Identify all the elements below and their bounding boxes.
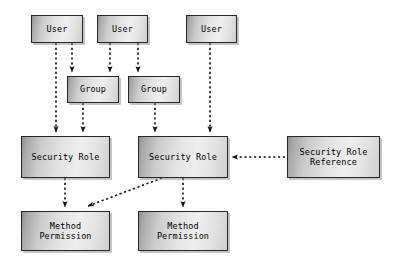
node-label: Method Permission	[39, 221, 91, 242]
node-label: Security Role	[32, 152, 100, 162]
edges-group	[56, 43, 285, 207]
node-label: Security Role Reference	[300, 147, 368, 168]
node-group-2[interactable]: Group	[128, 76, 180, 103]
node-security-role-1[interactable]: Security Role	[21, 136, 110, 178]
node-label: Method Permission	[157, 221, 209, 242]
node-group-1[interactable]: Group	[67, 76, 119, 103]
node-method-permission-2[interactable]: Method Permission	[138, 211, 228, 251]
node-label: Security Role	[149, 152, 217, 162]
security-role-diagram: User User User Group Group Security Role…	[0, 0, 393, 268]
edge-role2-to-perm1	[88, 178, 162, 206]
node-user-3[interactable]: User	[186, 15, 237, 43]
node-method-permission-1[interactable]: Method Permission	[21, 211, 110, 251]
node-label: Group	[80, 84, 106, 94]
node-user-2[interactable]: User	[97, 15, 148, 43]
node-security-role-2[interactable]: Security Role	[138, 136, 228, 178]
node-label: Group	[141, 84, 167, 94]
node-label: User	[201, 24, 222, 34]
node-user-1[interactable]: User	[31, 15, 83, 43]
node-label: User	[47, 24, 68, 34]
node-security-role-reference[interactable]: Security Role Reference	[287, 136, 380, 178]
node-label: User	[112, 24, 133, 34]
